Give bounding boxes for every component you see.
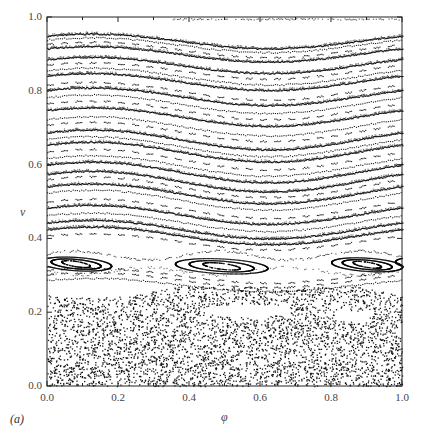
x-tick-label: 0.0 (32, 392, 62, 403)
y-tick-label: 0.8 (14, 85, 42, 96)
x-tick-label: 0.6 (245, 392, 275, 403)
x-tick-label: 0.2 (103, 392, 133, 403)
y-axis-label: v (20, 205, 25, 220)
poincare-section-figure: 0.0 0.2 0.4 0.6 0.8 1.0 0.0 0.2 0.4 0.6 … (0, 0, 425, 432)
y-tick-label: 0.0 (14, 380, 42, 391)
panel-label: (a) (10, 412, 24, 427)
y-tick-label: 0.4 (14, 232, 42, 243)
x-tick-label: 0.4 (174, 392, 204, 403)
plot-area (0, 0, 425, 432)
x-tick-label: 1.0 (387, 392, 417, 403)
x-tick-label: 0.8 (316, 392, 346, 403)
y-tick-label: 0.2 (14, 306, 42, 317)
y-tick-label: 1.0 (14, 11, 42, 22)
y-tick-label: 0.6 (14, 159, 42, 170)
x-axis-label: φ (221, 410, 228, 425)
scatter-points (47, 18, 404, 387)
